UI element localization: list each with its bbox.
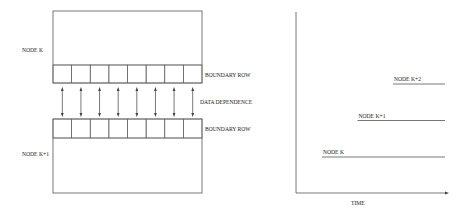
time-axis-label: TIME [351, 200, 365, 206]
top-boundary-cell [53, 65, 72, 83]
node-timelines: NODE KNODE K+1NODE K+2 [322, 76, 445, 157]
node-timeline-label: NODE K+1 [359, 113, 386, 119]
top-boundary-cell [128, 65, 147, 83]
top-boundary-cell [183, 65, 202, 83]
bottom-boundary-cell [72, 119, 91, 138]
node-timeline-label: NODE K [323, 149, 344, 155]
top-boundary-cell [146, 65, 165, 83]
bottom-boundary-row-label: BOUNDARY ROW [205, 126, 251, 132]
top-boundary-row-label: BOUNDARY ROW [205, 72, 251, 78]
node-k1-label: NODE K+1 [22, 151, 49, 157]
top-boundary-cell [109, 65, 128, 83]
top-boundary-cell [165, 65, 184, 83]
pipeline-diagram: NODE K BOUNDARY ROW DATA DEPENDENCE NODE… [0, 0, 464, 216]
bottom-boundary-cell [165, 119, 184, 138]
top-boundary-cell [72, 65, 91, 83]
bottom-boundary-cell [109, 119, 128, 138]
node-k-label: NODE K [22, 47, 43, 53]
bottom-boundary-cell [128, 119, 147, 138]
bottom-boundary-row [53, 119, 202, 138]
node-timeline-label: NODE K+2 [394, 76, 421, 82]
data-dependence-label: DATA DEPENDENCE [200, 99, 253, 105]
data-dependence-arrows [62, 89, 192, 115]
bottom-boundary-cell [53, 119, 72, 138]
top-boundary-row [53, 65, 202, 83]
bottom-boundary-cell [146, 119, 165, 138]
bottom-boundary-cell [183, 119, 202, 138]
bottom-boundary-cell [90, 119, 109, 138]
top-boundary-cell [90, 65, 109, 83]
